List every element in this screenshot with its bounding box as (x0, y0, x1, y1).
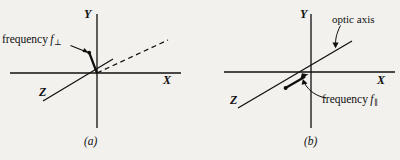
frequency-leader-arrowhead (83, 48, 89, 53)
panel-a: Y X Z frequency f⊥ (a) (0, 0, 200, 160)
frequency-word: frequency (2, 33, 50, 45)
panel-b-caption: (b) (304, 136, 317, 148)
polarization-tick (90, 54, 97, 73)
axis-label-z: Z (39, 86, 46, 98)
dashed-ray-line (97, 40, 168, 73)
figure-container: Y X Z frequency f⊥ (a) Y (0, 0, 400, 160)
frequency-leader-arrowhead (302, 79, 308, 85)
frequency-word: frequency (322, 93, 370, 105)
optic-axis-label: optic axis (332, 14, 374, 25)
optic-axis-leader-line (336, 26, 341, 45)
frequency-subscript-perpendicular: ⊥ (53, 38, 61, 47)
panel-a-caption: (a) (84, 136, 97, 148)
axis-label-x: X (377, 74, 385, 86)
axis-label-y: Y (300, 8, 307, 20)
frequency-perpendicular-label: frequency f⊥ (2, 34, 62, 47)
panel-b: Y X Z optic axis frequency f∥ (b) (200, 0, 400, 160)
axis-label-z: Z (230, 94, 237, 106)
frequency-parallel-label: frequency f∥ (322, 94, 378, 107)
frequency-subscript-parallel: ∥ (373, 98, 377, 107)
axis-label-y: Y (84, 8, 91, 20)
z-axis-line (43, 59, 113, 101)
optic-axis-leader-arrowhead (332, 43, 338, 49)
propagation-arrow-tail-dot (284, 86, 288, 90)
axis-label-x: X (163, 74, 171, 86)
